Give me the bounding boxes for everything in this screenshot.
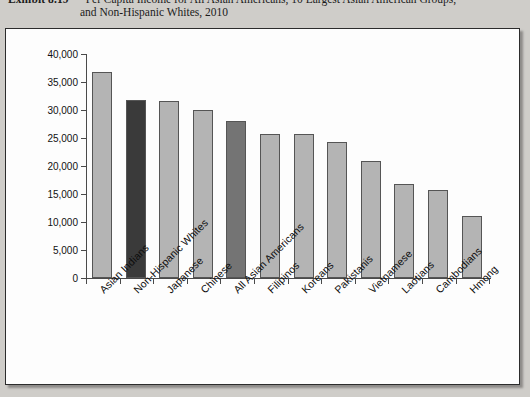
- y-axis-tick-mark: [81, 82, 86, 83]
- caption-text-line-1: Per Capita Income for All Asian American…: [86, 0, 457, 5]
- y-axis-tick-label: 25,000: [6, 133, 78, 144]
- y-axis-tick-mark: [81, 194, 86, 195]
- bar: [193, 110, 213, 278]
- y-axis-line: [86, 54, 87, 279]
- caption-text-line-2: and Non-Hispanic Whites, 2010: [80, 6, 228, 19]
- figure-panel: 05,00010,00015,00020,00025,00030,00035,0…: [5, 28, 520, 385]
- exhibit-number: Exhibit 8.19: [8, 0, 69, 5]
- caption-line-1: Exhibit 8.19Per Capita Income for All As…: [8, 0, 456, 5]
- y-axis-tick-mark: [81, 110, 86, 111]
- y-axis-tick-mark: [81, 138, 86, 139]
- bar: [92, 72, 112, 278]
- y-axis-tick-label: 30,000: [6, 105, 78, 116]
- y-axis-tick-label: 15,000: [6, 189, 78, 200]
- y-axis-tick-label: 0: [6, 273, 78, 284]
- y-axis-tick-label: 20,000: [6, 161, 78, 172]
- y-axis-tick-label: 40,000: [6, 49, 78, 60]
- bar: [294, 134, 314, 278]
- y-axis-tick-label: 10,000: [6, 217, 78, 228]
- y-axis-tick-mark: [81, 222, 86, 223]
- bar-chart: 05,00010,00015,00020,00025,00030,00035,0…: [6, 29, 519, 384]
- bar: [226, 121, 246, 278]
- y-axis-tick-label: 35,000: [6, 77, 78, 88]
- y-axis-tick-mark: [81, 250, 86, 251]
- bar: [327, 142, 347, 278]
- x-axis-tick-mark: [86, 279, 87, 284]
- y-axis-tick-mark: [81, 166, 86, 167]
- scanned-page-background: Exhibit 8.19Per Capita Income for All As…: [0, 0, 530, 397]
- y-axis-tick-mark: [81, 54, 86, 55]
- exhibit-caption: Exhibit 8.19Per Capita Income for All As…: [0, 0, 530, 27]
- y-axis-tick-label: 5,000: [6, 245, 78, 256]
